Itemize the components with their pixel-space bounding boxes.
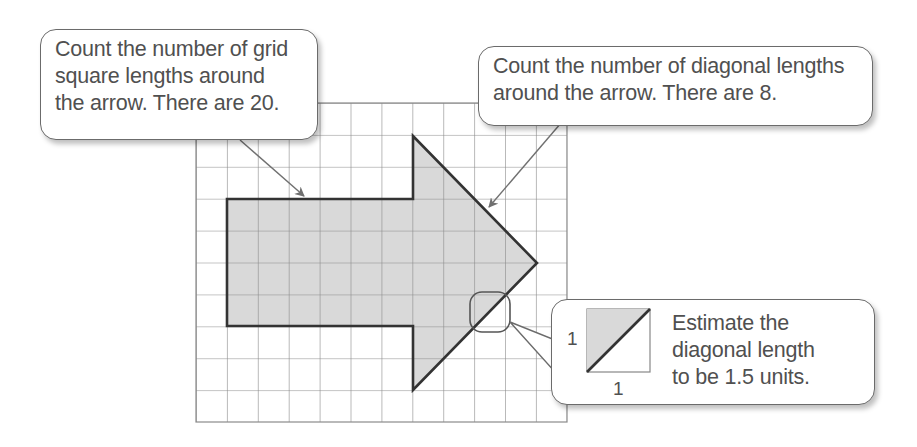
callout-line: around the arrow. There are 8. <box>493 80 862 107</box>
callout-estimate: Estimate the diagonal length to be 1.5 u… <box>551 299 875 405</box>
callout-diagonal-lengths: Count the number of diagonal lengths aro… <box>478 46 873 126</box>
callout-line: diagonal length <box>672 337 864 364</box>
inset-side-label: 1 <box>567 328 578 350</box>
callout-grid-lengths: Count the number of grid square lengths … <box>40 29 318 140</box>
callout-line: Count the number of diagonal lengths <box>493 53 862 80</box>
callout-line: to be 1.5 units. <box>672 364 864 391</box>
callout-line: the arrow. There are 20. <box>55 90 307 117</box>
inset-bottom-label: 1 <box>613 378 624 400</box>
callout-line: square lengths around <box>55 63 307 90</box>
callout-line: Estimate the <box>672 310 864 337</box>
callout-line: Count the number of grid <box>55 36 307 63</box>
